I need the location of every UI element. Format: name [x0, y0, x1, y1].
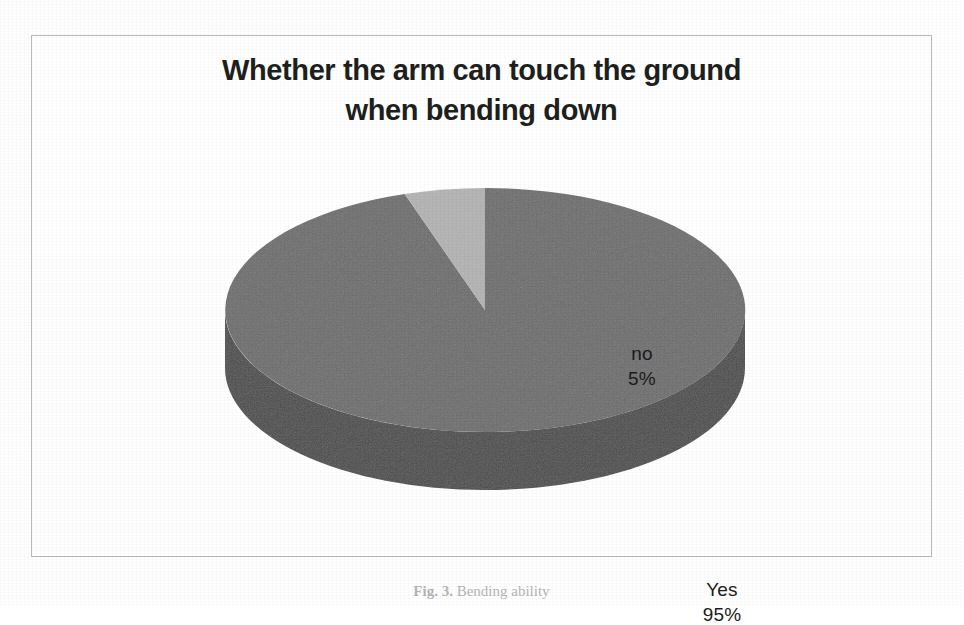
pie-label-no: no 5% — [592, 341, 692, 391]
pie-chart-svg — [180, 185, 800, 530]
pie-chart: no 5% Yes 95% — [180, 185, 800, 530]
figure-caption-text: Bending ability — [453, 583, 550, 599]
figure-caption-label: Fig. 3. — [413, 583, 453, 599]
pie-top-face — [225, 188, 745, 432]
figure-caption: Fig. 3. Bending ability — [31, 583, 932, 600]
pie-slice-yes — [225, 188, 745, 432]
chart-title: Whether the arm can touch the ground whe… — [31, 50, 932, 130]
